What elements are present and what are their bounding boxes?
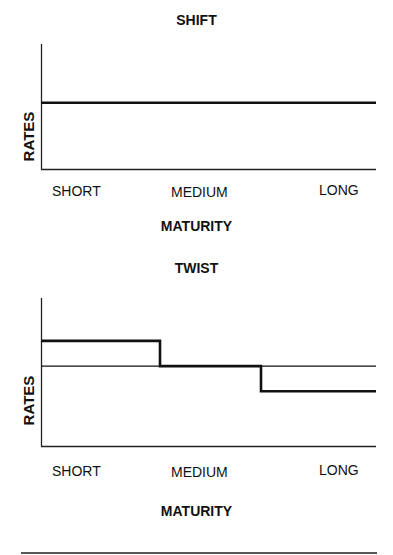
charts-canvas	[0, 0, 393, 555]
twist-axes	[41, 298, 376, 447]
shift-axes	[41, 44, 376, 170]
